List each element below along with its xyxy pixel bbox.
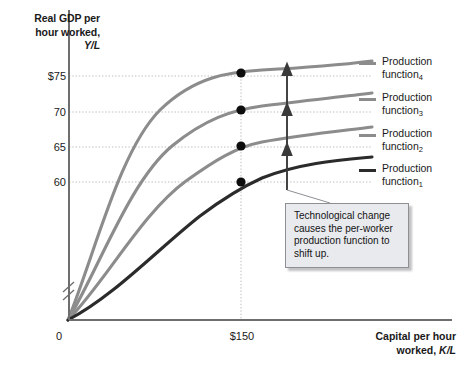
x-axis-title: Capital per hour worked, K/L (330, 330, 456, 357)
legend-label-pf2: Production function2 (382, 127, 432, 154)
y-axis-title-line2: hour worked, (35, 26, 100, 38)
data-point-pf3 (236, 105, 245, 114)
x-tick-label-0: 0 (52, 331, 66, 342)
y-axis-title-variable: Y/L (84, 39, 100, 51)
y-tick-label-70: 70 (18, 107, 66, 118)
legend-swatch-pf1 (359, 169, 376, 172)
legend-swatch-pf2 (359, 134, 376, 137)
y-tick-label-75: $75 (18, 71, 66, 82)
technological-change-callout: Technological change causes the per-work… (285, 203, 409, 268)
legend-label-pf1: Production function1 (382, 162, 432, 189)
y-tick-label-65: 65 (18, 142, 66, 153)
x-axis-title-variable: K/L (439, 344, 456, 356)
y-axis-title-line1: Real GDP per (34, 12, 100, 24)
data-point-pf4 (236, 68, 245, 77)
y-tick-label-60: 60 (18, 177, 66, 188)
data-point-pf1 (236, 177, 245, 186)
data-point-pf2 (236, 141, 245, 150)
legend-label-pf3: Production function3 (382, 91, 432, 118)
callout-text: Technological change causes the per-work… (294, 210, 393, 259)
horizontal-gridlines (69, 76, 372, 182)
x-axis-title-line1: Capital per hour (375, 330, 456, 342)
production-function-chart: Real GDP per hour worked, Y/L Capital pe… (0, 0, 460, 375)
y-axis-title: Real GDP per hour worked, Y/L (2, 12, 100, 53)
x-tick-label-150: $150 (219, 331, 265, 342)
callout-leader-line (287, 190, 330, 203)
shift-arrow-1-to-2 (283, 144, 292, 190)
legend-label-pf4: Production function4 (382, 55, 432, 82)
legend-swatch-pf4 (359, 62, 376, 65)
legend-swatch-pf3 (359, 98, 376, 101)
x-axis-title-line2: worked, (396, 344, 436, 356)
